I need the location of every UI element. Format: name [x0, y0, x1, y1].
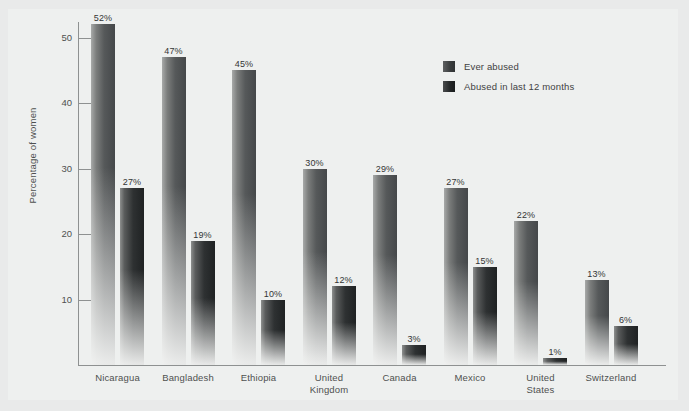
x-axis-label-line: States: [496, 384, 586, 396]
legend-swatch-icon: [443, 61, 455, 72]
legend-swatch-icon: [443, 81, 455, 92]
legend-label: Ever abused: [464, 61, 519, 72]
x-axis-label: Switzerland: [566, 372, 656, 384]
chart-legend: Ever abused Abused in last 12 months: [443, 60, 574, 100]
x-axis-label-line: Kingdom: [284, 384, 374, 396]
x-axis-label-line: Switzerland: [566, 372, 656, 384]
legend-label: Abused in last 12 months: [464, 81, 574, 92]
x-axis-labels: NicaraguaBangladeshEthiopiaUnitedKingdom…: [0, 0, 689, 411]
legend-item-abused-last-12-months[interactable]: Abused in last 12 months: [443, 80, 574, 92]
chart-figure: 1020304050 Percentage of women 52%27%47%…: [0, 0, 689, 411]
legend-item-ever-abused[interactable]: Ever abused: [443, 60, 574, 72]
